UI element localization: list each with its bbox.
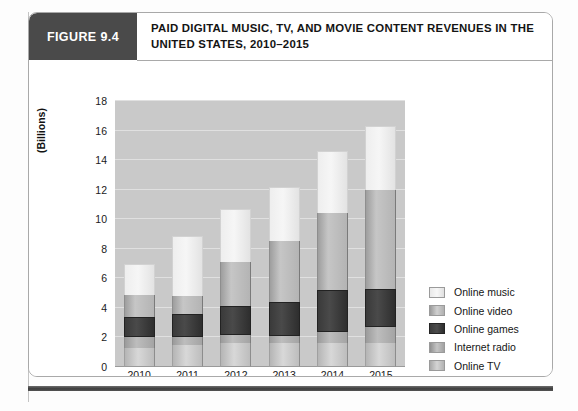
chart-legend: Online musicOnline videoOnline gamesInte… (429, 283, 549, 375)
figure-page: FIGURE 9.4 PAID DIGITAL MUSIC, TV, AND M… (0, 0, 578, 411)
figure-title: PAID DIGITAL MUSIC, TV, AND MOVIE CONTEN… (151, 21, 542, 52)
bar-group-2013[interactable] (269, 101, 300, 367)
figure-frame: FIGURE 9.4 PAID DIGITAL MUSIC, TV, AND M… (28, 12, 553, 377)
bar-segment-online-video-2014[interactable] (317, 213, 348, 290)
y-axis-tick-label: 18 (95, 95, 107, 107)
internet-radio-swatch (429, 342, 445, 353)
footer-rule (28, 386, 553, 391)
bar-segment-online-video-2011[interactable] (172, 296, 203, 314)
legend-label: Online music (454, 286, 515, 298)
bar-segment-online-video-2012[interactable] (220, 262, 251, 306)
bar-segment-internet-radio-2015[interactable] (365, 327, 396, 343)
online-tv-swatch (429, 360, 445, 371)
bar-segment-online-games-2012[interactable] (220, 306, 251, 334)
bar-group-2015[interactable] (365, 101, 396, 367)
gridline (115, 336, 405, 337)
x-axis-tick-label: 2013 (272, 369, 295, 377)
bar-segment-online-video-2015[interactable] (365, 190, 396, 289)
bar-segment-online-tv-2011[interactable] (172, 345, 203, 367)
y-axis-tick-label: 6 (101, 272, 107, 284)
x-axis-tick-label: 2010 (127, 369, 150, 377)
bar-group-2010[interactable] (124, 101, 155, 367)
bar-segment-online-music-2015[interactable] (365, 126, 396, 190)
bar-segment-online-games-2014[interactable] (317, 290, 348, 331)
y-axis-tick-label: 16 (95, 125, 107, 137)
figure-header: FIGURE 9.4 PAID DIGITAL MUSIC, TV, AND M… (29, 13, 552, 60)
bar-segment-online-video-2013[interactable] (269, 241, 300, 302)
bar-segment-online-music-2014[interactable] (317, 151, 348, 213)
bar-segment-internet-radio-2011[interactable] (172, 337, 203, 344)
bar-segment-online-tv-2010[interactable] (124, 348, 155, 367)
bar-segment-internet-radio-2013[interactable] (269, 336, 300, 343)
bar-segment-internet-radio-2014[interactable] (317, 332, 348, 344)
bar-group-2012[interactable] (220, 101, 251, 367)
gridline (115, 130, 405, 131)
y-axis-tick-label: 0 (101, 361, 107, 373)
y-axis-tick-label: 10 (95, 213, 107, 225)
bar-segment-online-games-2013[interactable] (269, 302, 300, 336)
bar-group-2011[interactable] (172, 101, 203, 367)
y-axis-tick-label: 2 (101, 331, 107, 343)
bar-segment-internet-radio-2010[interactable] (124, 337, 155, 347)
figure-title-container: PAID DIGITAL MUSIC, TV, AND MOVIE CONTEN… (137, 13, 552, 60)
bar-segment-online-tv-2012[interactable] (220, 343, 251, 367)
legend-item-online-video[interactable]: Online video (429, 301, 549, 319)
bar-segment-internet-radio-2012[interactable] (220, 335, 251, 344)
plot-area (115, 101, 405, 367)
gridline (115, 218, 405, 219)
bar-segment-online-music-2010[interactable] (124, 264, 155, 295)
bar-segment-online-video-2010[interactable] (124, 295, 155, 317)
x-axis-tick-label: 2014 (321, 369, 344, 377)
bar-segment-online-music-2012[interactable] (220, 209, 251, 262)
chart-body: (Billions) 024681012141618 2010201120122… (29, 61, 552, 377)
legend-label: Online video (454, 305, 512, 317)
y-axis-tick-label: 4 (101, 302, 107, 314)
legend-item-online-games[interactable]: Online games (429, 320, 549, 338)
gridline (115, 277, 405, 278)
bar-segment-online-tv-2013[interactable] (269, 343, 300, 367)
gridline (115, 100, 405, 101)
gridline (115, 248, 405, 249)
y-axis-tick-label: 12 (95, 184, 107, 196)
x-axis-tick-label: 2012 (224, 369, 247, 377)
bar-segment-online-music-2013[interactable] (269, 187, 300, 242)
bar-segment-online-games-2010[interactable] (124, 317, 155, 338)
y-axis-tick-label: 8 (101, 243, 107, 255)
gridline (115, 159, 405, 160)
figure-number-tag: FIGURE 9.4 (29, 13, 137, 60)
bar-segment-online-tv-2015[interactable] (365, 343, 396, 367)
legend-label: Online games (454, 323, 519, 335)
bar-segment-online-tv-2014[interactable] (317, 343, 348, 367)
online-music-swatch (429, 287, 445, 298)
gridline (115, 189, 405, 190)
bar-segment-online-music-2011[interactable] (172, 236, 203, 297)
x-axis-tick-label: 2015 (369, 369, 392, 377)
legend-label: Internet radio (454, 341, 516, 353)
y-axis-tick-labels: 024681012141618 (29, 61, 115, 367)
x-axis-tick-label: 2011 (176, 369, 199, 377)
x-axis-tick-labels: 201020112012201320142015 (115, 369, 405, 377)
x-axis-baseline (115, 366, 405, 367)
y-axis-tick-label: 14 (95, 154, 107, 166)
legend-item-online-tv[interactable]: Online TV (429, 357, 549, 375)
online-video-swatch (429, 305, 445, 316)
bar-group-2014[interactable] (317, 101, 348, 367)
legend-item-internet-radio[interactable]: Internet radio (429, 338, 549, 356)
legend-label: Online TV (454, 360, 501, 372)
online-games-swatch (429, 323, 445, 334)
gridline (115, 307, 405, 308)
bar-segment-online-games-2011[interactable] (172, 314, 203, 338)
bar-segment-online-games-2015[interactable] (365, 289, 396, 327)
legend-item-online-music[interactable]: Online music (429, 283, 549, 301)
